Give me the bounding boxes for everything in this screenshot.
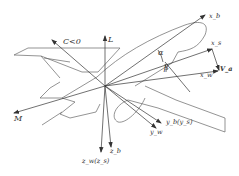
left-wing <box>14 48 120 72</box>
z-w-axis <box>101 86 105 152</box>
side-force-vector <box>52 40 105 86</box>
label-x-w: x_w <box>200 72 212 79</box>
label-side-force: C<0 <box>63 38 81 46</box>
moment-vector <box>14 86 105 113</box>
z-b-axis <box>105 86 111 147</box>
label-velocity: V_a <box>220 66 233 73</box>
label-z-b: z_b <box>110 148 121 155</box>
tail <box>40 77 97 98</box>
velocity-vector <box>212 49 219 70</box>
label-moment: M <box>14 115 22 123</box>
label-alpha: α <box>158 49 163 57</box>
label-lift: L <box>108 36 113 44</box>
y-w-axis <box>105 86 156 128</box>
label-x-s: x_s <box>211 40 221 47</box>
label-y-b: y_b(y_s) <box>166 119 192 126</box>
aircraft-outline <box>14 22 225 132</box>
engine <box>114 98 145 122</box>
label-x-b: x_b <box>209 13 220 20</box>
label-beta: β <box>164 64 169 72</box>
axes <box>14 15 219 152</box>
fuselage-top <box>97 22 206 77</box>
label-z-w: z_w(z_s) <box>82 158 109 165</box>
label-y-w: y_w <box>150 129 163 136</box>
x-b-axis <box>105 15 205 86</box>
y-b-axis <box>105 86 161 123</box>
